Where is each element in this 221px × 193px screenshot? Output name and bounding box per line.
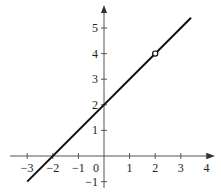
y-tick-label: 2	[92, 98, 98, 112]
open-points	[153, 51, 158, 56]
y-tick-label: 3	[92, 72, 98, 86]
y-tick-label: 4	[92, 47, 98, 61]
x-tick-label: 2	[152, 161, 158, 175]
x-tick-label: −1	[72, 161, 85, 175]
open-point-marker	[153, 51, 158, 56]
y-axis-arrow-icon	[101, 5, 107, 13]
plot-line	[27, 18, 191, 182]
x-tick-label: −3	[21, 161, 34, 175]
x-axis-arrow-icon	[207, 153, 215, 159]
ticks	[27, 28, 206, 182]
function-line	[27, 18, 191, 182]
x-tick-label: 4	[203, 161, 209, 175]
x-tick-label: 0	[93, 161, 99, 175]
y-tick-label: 1	[92, 123, 98, 137]
y-tick-label: 5	[92, 21, 98, 35]
x-tick-label: 1	[127, 161, 133, 175]
y-tick-label: −1	[85, 175, 98, 189]
tick-labels: −3−2−101234−112345	[21, 21, 210, 189]
x-tick-label: −2	[46, 161, 59, 175]
x-tick-label: 3	[178, 161, 184, 175]
function-graph: −3−2−101234−112345	[0, 0, 221, 193]
